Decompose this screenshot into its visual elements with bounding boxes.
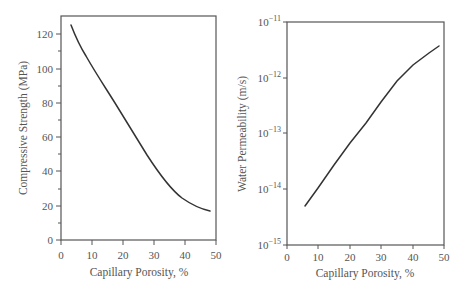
x-tick-label: 50 — [211, 249, 223, 261]
y-tick-label: 60 — [42, 131, 54, 143]
x-tick-label: 40 — [408, 251, 420, 263]
x-tick-label: 0 — [58, 249, 64, 261]
x-axis: 0 10 20 30 40 50 — [284, 245, 450, 263]
y-tick-label: 40 — [42, 165, 54, 177]
y-axis-label: Compressive Strength (MPa) — [17, 61, 30, 195]
y-tick-label: 20 — [42, 200, 54, 212]
y-tick-label: 120 — [37, 28, 54, 40]
x-axis-label: Capillary Porosity, % — [90, 266, 189, 279]
x-tick-label: 30 — [376, 251, 388, 263]
permeability-curve — [305, 46, 439, 206]
y-tick-label: 10−11 — [258, 14, 281, 28]
x-tick-label: 30 — [149, 249, 161, 261]
x-axis-label: Capillary Porosity, % — [316, 267, 415, 280]
x-axis: 0 10 20 30 40 50 — [58, 240, 222, 261]
compressive-strength-chart: 0 20 40 60 80 100 120 0 10 20 30 40 50 C… — [0, 0, 232, 291]
y-axis: 0 20 40 60 80 100 120 — [37, 28, 62, 246]
water-permeability-chart: 10−11 10−12 10−13 10−14 10−15 0 10 20 30… — [232, 0, 465, 291]
y-tick-label: 0 — [48, 234, 54, 246]
x-tick-label: 20 — [118, 249, 130, 261]
y-tick-label: 10−14 — [257, 181, 281, 195]
y-tick-label: 80 — [42, 97, 54, 109]
x-tick-label: 10 — [87, 249, 99, 261]
x-tick-label: 10 — [313, 251, 325, 263]
x-tick-label: 40 — [180, 249, 192, 261]
y-tick-label: 10−13 — [257, 125, 281, 139]
x-tick-label: 50 — [439, 251, 451, 263]
y-tick-label: 10−12 — [257, 70, 281, 84]
x-tick-label: 0 — [284, 251, 290, 263]
plot-frame — [287, 22, 444, 245]
strength-curve — [71, 25, 210, 211]
plot-frame — [61, 16, 216, 240]
y-tick-label: 100 — [37, 63, 54, 75]
x-tick-label: 20 — [345, 251, 357, 263]
y-tick-label: 10−15 — [257, 237, 281, 251]
y-axis: 10−11 10−12 10−13 10−14 10−15 — [257, 14, 287, 251]
y-axis-label: Water Permeability (m/s) — [236, 76, 249, 192]
